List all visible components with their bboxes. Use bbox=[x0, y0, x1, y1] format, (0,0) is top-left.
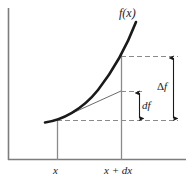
x-tick-label: x bbox=[53, 165, 58, 176]
function-curve bbox=[45, 22, 136, 123]
delta-f-italic-f: f bbox=[164, 80, 167, 92]
differential-figure: f(x) x x + dx df Δf bbox=[0, 0, 192, 180]
function-label: f(x) bbox=[119, 7, 136, 19]
delta-f-label: Δf bbox=[157, 81, 167, 92]
df-label: df bbox=[142, 100, 151, 111]
x-plus-dx-tick-label: x + dx bbox=[104, 165, 132, 176]
